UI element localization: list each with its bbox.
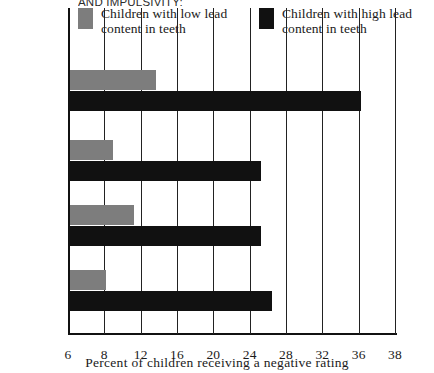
bar [70,140,113,160]
plot-area: DistractibleImpulsiveEasily frustratedLo… [68,8,395,335]
bar [70,291,272,311]
category-label: Distractible [0,83,23,98]
x-axis-title: Percent of children receiving a negative… [0,355,434,371]
bar [70,226,261,246]
category-label: Impulsive [0,153,23,168]
bar [70,161,261,181]
bar [70,205,134,225]
gridline-38 [395,8,396,334]
category-label: Low overall functioning [0,276,23,305]
category-label: Easily frustrated [0,211,23,240]
bar [70,91,361,111]
bar [70,70,156,90]
bar-series-container [70,8,395,335]
bar [70,270,106,290]
